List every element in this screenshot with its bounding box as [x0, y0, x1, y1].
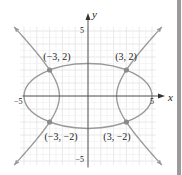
- page-border: [177, 0, 181, 175]
- x-axis-arrow-icon: [158, 94, 165, 99]
- y-axis-label: y: [91, 8, 97, 20]
- y-tick-label: −5: [75, 155, 84, 164]
- point-label: (3, −2): [103, 131, 130, 143]
- intersection-point: [47, 119, 52, 124]
- intersection-point: [47, 67, 52, 72]
- y-axis-arrow-icon: [86, 13, 91, 20]
- intersection-point: [124, 67, 129, 72]
- intersection-point: [124, 119, 129, 124]
- coordinate-graph: xy5−5−55(−3, 2)(3, 2)(−3, −2)(3, −2): [0, 0, 182, 175]
- y-tick-label: 5: [80, 26, 84, 35]
- x-axis-label: x: [167, 91, 173, 103]
- x-tick-label: −5: [14, 97, 23, 106]
- point-label: (3, 2): [115, 51, 137, 63]
- point-label: (−3, −2): [45, 131, 78, 143]
- x-tick-label: 5: [150, 97, 154, 106]
- point-label: (−3, 2): [43, 51, 70, 63]
